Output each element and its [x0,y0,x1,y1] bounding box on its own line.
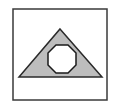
octagon-hole [48,45,76,73]
diagram-canvas [0,0,116,104]
